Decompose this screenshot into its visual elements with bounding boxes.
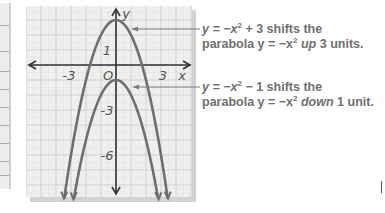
leader-arrow-bottom-icon	[133, 85, 139, 90]
caption-shift-up: y = −x2 + 3 shifts the parabola y = −x2 …	[202, 22, 363, 52]
page-edge-marker	[381, 181, 382, 193]
caption-line: y = −x2 + 3 shifts the	[202, 22, 363, 37]
caption-line: parabola y = −x2 down 1 unit.	[202, 95, 374, 110]
caption-line: y = −x2 − 1 shifts the	[202, 80, 374, 95]
caption-shift-down: y = −x2 − 1 shifts the parabola y = −x2 …	[202, 80, 374, 110]
leader-arrow-top-icon	[132, 27, 138, 32]
caption-line: parabola y = −x2 up 3 units.	[202, 37, 363, 52]
